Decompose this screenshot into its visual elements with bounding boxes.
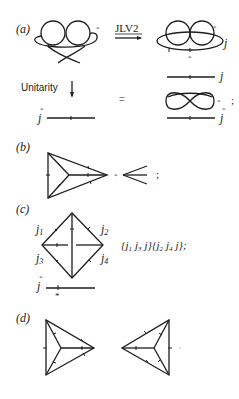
star-marker: *	[96, 25, 100, 33]
edge-label-j1: j1	[34, 222, 43, 237]
panel-a: (a) * JLV2 * * j	[16, 21, 234, 125]
edge-label-j2: j2	[99, 222, 108, 237]
j-label: j	[218, 69, 224, 83]
star-marker: *	[40, 106, 44, 114]
panel-d: (d)	[16, 311, 181, 375]
panel-d-label: (d)	[16, 311, 30, 325]
edge-label-j4: j4	[99, 251, 108, 266]
panel-b-label: (b)	[16, 140, 30, 154]
triangle-right	[122, 320, 181, 375]
star-marker: *	[55, 291, 60, 301]
line-j-starred: j * *	[35, 274, 95, 301]
edge-label-j3: j3	[34, 251, 43, 266]
star-marker: *	[217, 98, 221, 106]
star-marker: *	[114, 172, 118, 180]
unitarity-arrow: Unitarity	[21, 81, 74, 98]
three-line-fan	[123, 166, 147, 184]
unitarity-label: Unitarity	[21, 82, 58, 93]
panel-c: (c) j1 j2 j3 j4 {j1j3j}{j2j4j}; j * *	[16, 202, 187, 301]
panel-c-label: (c)	[16, 202, 29, 216]
star-marker: *	[39, 274, 43, 282]
triangle-vertex-diagram	[46, 153, 107, 198]
equals-sign: =	[119, 94, 125, 105]
panel-a-label: (a)	[16, 22, 30, 36]
diagram-canvas: (a) * JLV2 * * j	[0, 0, 239, 399]
semicolon: ;	[156, 168, 159, 180]
triangle-left	[43, 320, 94, 375]
line-j-lower-left: j *	[36, 106, 95, 125]
jlv2-arrow: JLV2	[115, 22, 142, 40]
line-j-upper-right: j	[167, 69, 224, 83]
diamond-diagram	[42, 213, 103, 278]
jlv2-label: JLV2	[115, 22, 138, 34]
star-marker: *	[222, 106, 226, 114]
star-marker: *	[188, 54, 192, 62]
six-j-formula: {j1j3j}{j2j4j};	[121, 239, 187, 253]
star-marker: *	[213, 24, 217, 32]
figure-eight-right: * * j	[157, 21, 228, 62]
figure-eight-left: *	[35, 21, 100, 63]
semicolon: ;	[231, 94, 234, 106]
panel-b: (b) * ;	[16, 140, 159, 198]
